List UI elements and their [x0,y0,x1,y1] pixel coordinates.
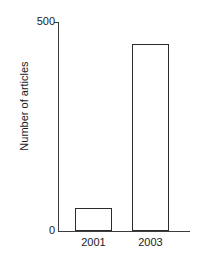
y-axis-title: Number of articles [18,46,30,166]
x-axis-tick-label-2001: 2001 [74,236,114,248]
x-axis-line [58,231,190,232]
bar-2003 [132,44,169,231]
x-axis-tick-label-2003: 2003 [131,236,171,248]
y-axis-line [58,22,59,231]
bar-2001 [75,208,112,231]
bar-chart-figure: 500 0 Number of articles 2001 2003 [0,0,215,257]
y-axis-tick-label-500: 500 [15,16,55,27]
y-axis-tick-label-0: 0 [15,225,55,236]
